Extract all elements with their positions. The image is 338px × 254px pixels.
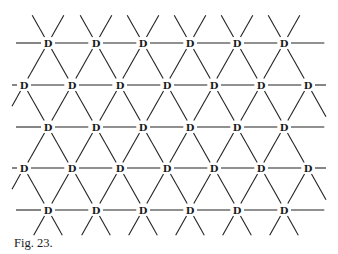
lattice-edge xyxy=(241,91,258,121)
lattice-edge xyxy=(34,216,45,235)
lattice-node-label: D xyxy=(210,80,219,91)
lattice-diagram: DDDDDDDDDDDDDDDDDDDDDDDDDDDDDDDD xyxy=(0,0,338,254)
lattice-edge xyxy=(100,49,117,79)
lattice-edge xyxy=(171,91,188,121)
lattice-edge xyxy=(100,133,117,163)
lattice-node-label: D xyxy=(139,122,148,133)
lattice-edge xyxy=(312,91,327,117)
lattice-edge xyxy=(123,49,140,79)
lattice-edge xyxy=(52,91,69,121)
lattice-edge xyxy=(76,174,93,204)
lattice-edge xyxy=(264,133,281,163)
lattice-edge xyxy=(176,216,187,235)
lattice-edge xyxy=(288,174,305,204)
triangular-lattice-figure: DDDDDDDDDDDDDDDDDDDDDDDDDDDDDDDD Fig. 23… xyxy=(0,0,338,254)
lattice-node-label: D xyxy=(233,122,242,133)
lattice-edge xyxy=(147,49,164,79)
lattice-node-label: D xyxy=(20,80,29,91)
lattice-node-label: D xyxy=(280,38,289,49)
lattice-edge xyxy=(32,15,44,37)
lattice-node-label: D xyxy=(233,38,242,49)
lattice-node-label: D xyxy=(92,122,101,133)
lattice-edge xyxy=(218,174,235,204)
lattice-edge xyxy=(28,91,45,121)
lattice-edge xyxy=(264,49,281,79)
lattice-edge xyxy=(288,133,305,163)
lattice-edge xyxy=(76,49,93,79)
lattice-edge xyxy=(312,174,327,200)
lattice-node-label: D xyxy=(257,163,266,174)
lattice-node-label: D xyxy=(186,205,195,216)
lattice-edge xyxy=(52,174,69,204)
lattice-edge xyxy=(194,216,205,235)
lattice-edge xyxy=(80,15,92,37)
lattice-edge xyxy=(52,49,69,79)
lattice-edge xyxy=(28,133,45,163)
lattice-edge xyxy=(100,15,112,37)
lattice-node-label: D xyxy=(139,205,148,216)
lattice-edge xyxy=(174,15,186,37)
lattice-edge xyxy=(221,15,233,37)
lattice-edge xyxy=(241,15,253,37)
lattice-edge xyxy=(217,49,234,79)
lattice-node-label: D xyxy=(163,80,172,91)
lattice-edge xyxy=(52,15,64,37)
lattice-edge xyxy=(268,15,280,37)
lattice-edge xyxy=(194,15,206,37)
lattice-edge xyxy=(223,216,234,235)
lattice-edge xyxy=(147,15,159,37)
lattice-edge xyxy=(124,91,141,121)
lattice-edge xyxy=(12,174,21,189)
lattice-edge xyxy=(124,174,141,204)
lattice-edge xyxy=(241,49,258,79)
lattice-node-label: D xyxy=(44,38,53,49)
lattice-edge xyxy=(12,91,21,106)
lattice-edge xyxy=(129,216,140,235)
lattice-edge xyxy=(82,216,93,235)
lattice-edge xyxy=(288,91,305,121)
lattice-edge xyxy=(194,91,211,121)
lattice-node-label: D xyxy=(44,205,53,216)
lattice-edge xyxy=(241,216,252,235)
lattice-edge xyxy=(194,174,211,204)
lattice-edge xyxy=(241,174,258,204)
lattice-edge xyxy=(241,133,258,163)
lattice-node-label: D xyxy=(163,163,172,174)
lattice-edge xyxy=(288,15,300,37)
lattice-edge xyxy=(28,174,45,204)
lattice-node-label: D xyxy=(304,80,313,91)
lattice-node-label: D xyxy=(233,205,242,216)
lattice-node-label: D xyxy=(139,38,148,49)
lattice-edge xyxy=(265,174,282,204)
lattice-node-label: D xyxy=(92,205,101,216)
lattice-node-label: D xyxy=(68,163,77,174)
lattice-node-label: D xyxy=(92,38,101,49)
lattice-edge xyxy=(170,49,187,79)
lattice-edge xyxy=(76,91,93,121)
lattice-edge xyxy=(218,91,235,121)
lattice-node-label: D xyxy=(186,38,195,49)
lattice-edge xyxy=(171,174,188,204)
lattice-edge xyxy=(52,216,63,235)
lattice-edge xyxy=(147,91,164,121)
lattice-node-label: D xyxy=(20,163,29,174)
lattice-edge xyxy=(127,15,139,37)
lattice-node-label: D xyxy=(44,122,53,133)
lattice-edge xyxy=(76,133,93,163)
lattice-edge xyxy=(270,216,281,235)
lattice-edge xyxy=(28,49,45,79)
lattice-edge xyxy=(217,133,234,163)
lattice-edge xyxy=(170,133,187,163)
lattice-edge xyxy=(194,49,211,79)
figure-caption: Fig. 23. xyxy=(14,236,53,251)
lattice-node-label: D xyxy=(257,80,266,91)
lattice-node-label: D xyxy=(116,80,125,91)
lattice-edge xyxy=(194,133,211,163)
lattice-node-label: D xyxy=(304,163,313,174)
lattice-node-label: D xyxy=(116,163,125,174)
lattice-edge xyxy=(265,91,282,121)
lattice-edge xyxy=(147,216,158,235)
lattice-node-label: D xyxy=(68,80,77,91)
lattice-node-label: D xyxy=(210,163,219,174)
lattice-node-label: D xyxy=(280,122,289,133)
